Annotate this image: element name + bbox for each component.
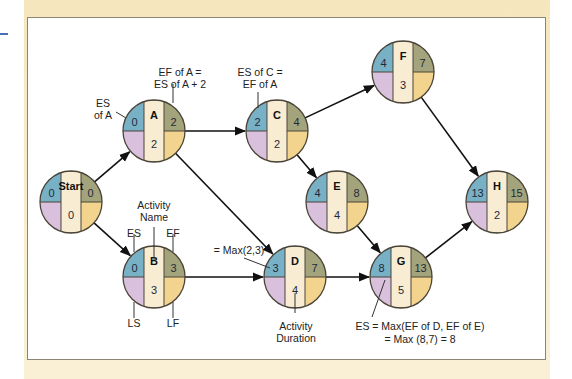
ann-es-of-g-2: = Max (8,7) = 8 <box>384 333 455 345</box>
ann-activity-duration-1: Activity <box>279 320 313 332</box>
edge-e-to-g <box>357 226 380 253</box>
nodes-layer: Start000A022B033C242D374E484F473G8135H13… <box>40 41 528 308</box>
early-finish-value: 4 <box>293 116 299 128</box>
activity-name: E <box>333 180 340 192</box>
activity-name: G <box>397 255 406 267</box>
ann-ls: LS <box>128 317 141 329</box>
ann-ef: EF <box>166 227 179 239</box>
leader-max-d <box>244 258 270 268</box>
early-finish-value: 2 <box>170 116 176 128</box>
node-start[interactable]: Start000 <box>40 171 102 233</box>
activity-name: Start <box>58 180 83 192</box>
early-start-value: 4 <box>314 187 320 199</box>
early-start-value: 13 <box>471 187 483 199</box>
edge-start-to-b <box>94 223 130 256</box>
early-finish-value: 7 <box>419 57 425 69</box>
early-finish-value: 7 <box>311 262 317 274</box>
ann-max-d: = Max(2,3) <box>214 244 264 256</box>
early-finish-value: 13 <box>414 262 426 274</box>
node-g[interactable]: G8135 <box>370 246 432 308</box>
activity-name: D <box>291 255 299 267</box>
duration-value: 2 <box>494 209 500 221</box>
node-f[interactable]: F473 <box>372 41 434 103</box>
early-finish-value: 3 <box>170 262 176 274</box>
early-start-value: 3 <box>272 262 278 274</box>
ann-activity-duration-2: Duration <box>276 332 316 344</box>
edge-c-to-e <box>297 155 316 178</box>
early-start-value: 8 <box>378 262 384 274</box>
ann-ef-of-a-1: EF of A = <box>159 66 202 78</box>
ann-activity-name-1: Activity <box>137 199 171 211</box>
ann-activity-name-2: Name <box>140 211 168 223</box>
duration-value: 5 <box>398 284 404 296</box>
edge-c-to-f <box>305 86 374 118</box>
node-c[interactable]: C242 <box>246 100 308 162</box>
ann-es-of-a-2: of A <box>94 109 112 121</box>
duration-value: 2 <box>151 138 157 150</box>
activity-name: F <box>400 50 407 62</box>
activity-name: A <box>150 109 158 121</box>
activity-name: H <box>493 180 501 192</box>
early-finish-value: 15 <box>510 187 522 199</box>
ann-es: ES <box>127 227 141 239</box>
ann-lf: LF <box>167 317 179 329</box>
edge-g-to-h <box>425 222 471 258</box>
duration-value: 3 <box>151 284 157 296</box>
early-start-value: 4 <box>380 57 386 69</box>
node-e[interactable]: E484 <box>306 171 368 233</box>
duration-value: 2 <box>274 138 280 150</box>
ann-es-of-a-1: ES <box>96 97 110 109</box>
leader-es-of-a <box>116 112 126 118</box>
edge-f-to-h <box>421 97 478 176</box>
node-h[interactable]: H13152 <box>466 171 528 233</box>
early-finish-value: 8 <box>353 187 359 199</box>
early-start-value: 0 <box>48 187 54 199</box>
early-start-value: 0 <box>131 116 137 128</box>
activity-on-node-diagram: Start000A022B033C242D374E484F473G8135H13… <box>0 0 572 379</box>
early-finish-value: 0 <box>87 187 93 199</box>
activity-name: C <box>273 109 281 121</box>
ann-es-of-g-1: ES = Max(EF of D, EF of E) <box>355 320 484 332</box>
ann-es-of-c-2: EF of A <box>243 78 277 90</box>
edge-a-to-d <box>176 153 273 254</box>
ann-ef-of-a-2: ES of A + 2 <box>154 78 206 90</box>
node-a[interactable]: A022 <box>123 100 185 162</box>
early-start-value: 2 <box>254 116 260 128</box>
duration-value: 0 <box>68 209 74 221</box>
network-diagram-figure: Start000A022B033C242D374E484F473G8135H13… <box>0 0 572 379</box>
duration-value: 4 <box>334 209 340 221</box>
edge-start-to-a <box>95 152 130 182</box>
early-start-value: 0 <box>131 262 137 274</box>
ann-es-of-c-1: ES of C = <box>237 66 282 78</box>
duration-value: 3 <box>400 79 406 91</box>
